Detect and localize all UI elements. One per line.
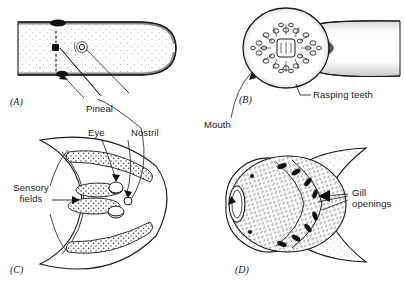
- eye-structure-c: [109, 182, 123, 194]
- panel-b-oral-disc: [231, 8, 400, 118]
- label-sensory-fields: Sensory fields: [8, 183, 54, 204]
- label-sensory-fields-line1: Sensory: [13, 182, 49, 193]
- oral-opening-c: [108, 206, 124, 218]
- panel-label-b: (B): [239, 94, 252, 105]
- panel-label-a: (A): [10, 96, 23, 107]
- label-mouth: Mouth: [204, 120, 231, 131]
- eye-marking-dorsal: [50, 19, 66, 26]
- label-pineal: Pineal: [86, 104, 113, 115]
- label-eye: Eye: [88, 128, 105, 139]
- panel-d-ventral-head: [226, 148, 366, 262]
- label-sensory-fields-line2: fields: [20, 193, 43, 204]
- mouth-opening-d: [229, 186, 245, 222]
- label-gill-openings: Gill openings: [352, 188, 402, 209]
- panel-c-anterior-head: [40, 128, 167, 269]
- label-nostril: Nostril: [131, 128, 159, 139]
- label-gill-line2: openings: [352, 198, 391, 209]
- illustration-linework: [0, 0, 404, 293]
- nostril-structure-c: [124, 197, 132, 205]
- figure-canvas: Pineal Eye Nostril Rasping teeth Mouth S…: [0, 0, 404, 293]
- panel-label-c: (C): [10, 264, 23, 275]
- pineal-spot: [52, 44, 59, 51]
- panel-label-d: (D): [235, 264, 249, 275]
- label-rasping-teeth: Rasping teeth: [313, 90, 373, 101]
- label-gill-line1: Gill: [352, 187, 366, 198]
